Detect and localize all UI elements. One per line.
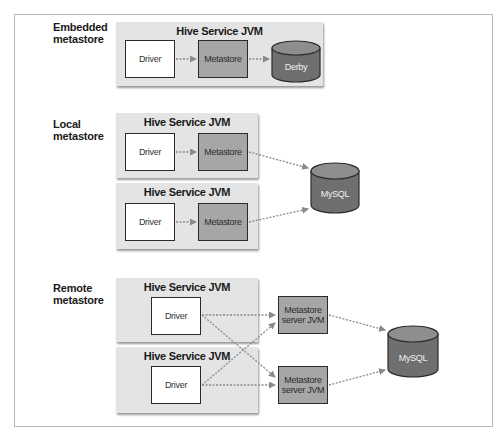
box-label-line: server JVM (282, 385, 325, 395)
label-line: metastore (53, 294, 104, 306)
label-line: Local (53, 118, 104, 130)
derby-database-cylinder: Derby (271, 40, 321, 83)
metastore-server-jvm-box: Metastore server JVM (278, 296, 328, 334)
database-label: Derby (271, 62, 321, 72)
box-label-line: Metastore (284, 305, 321, 315)
mysql-database-cylinder: MySQL (310, 162, 360, 214)
driver-box: Driver (125, 40, 175, 78)
driver-box: Driver (125, 203, 175, 241)
metastore-box: Metastore (198, 203, 248, 241)
section-label-remote: Remote metastore (53, 282, 104, 306)
box-label-line: Metastore (284, 375, 321, 385)
jvm-title: Hive Service JVM (116, 281, 258, 293)
database-cylinder-icon (310, 162, 360, 214)
jvm-title: Hive Service JVM (116, 186, 258, 198)
section-label-embedded: Embedded metastore (53, 21, 108, 45)
driver-box: Driver (125, 133, 175, 171)
driver-box: Driver (151, 366, 201, 404)
mysql-database-cylinder: MySQL (387, 325, 439, 378)
label-line: Remote (53, 282, 104, 294)
label-line: metastore (53, 33, 108, 45)
metastore-box: Metastore (198, 40, 248, 78)
jvm-title: Hive Service JVM (116, 25, 323, 37)
database-label: MySQL (387, 353, 439, 363)
metastore-box: Metastore (198, 133, 248, 171)
database-label: MySQL (310, 189, 360, 199)
jvm-title: Hive Service JVM (116, 116, 258, 128)
jvm-title: Hive Service JVM (116, 350, 258, 362)
section-label-local: Local metastore (53, 118, 104, 142)
label-line: metastore (53, 130, 104, 142)
driver-box: Driver (151, 297, 201, 335)
label-line: Embedded (53, 21, 108, 33)
box-label-line: server JVM (282, 315, 325, 325)
metastore-server-jvm-box: Metastore server JVM (278, 366, 328, 404)
database-cylinder-icon (387, 325, 439, 378)
